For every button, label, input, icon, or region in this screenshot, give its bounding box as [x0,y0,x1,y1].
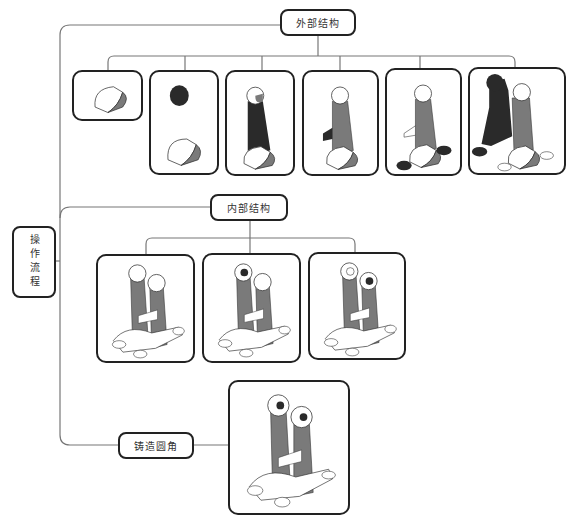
mirrored-arm-icon [470,69,564,173]
internal-step-3-image [308,252,406,360]
branch-node-external-structure: 外部结构 [280,9,356,36]
branch-label: 外部结构 [296,15,340,30]
external-step-5-image [385,68,462,176]
root-node-operation-flow: 操作流程 [12,226,56,298]
branch-label: 铸造圆角 [134,438,178,453]
process-diagram: 操作流程 外部结构 内部结构 铸造圆角 [0,0,572,521]
bracket-solid-icon [98,256,193,361]
external-step-1-image [72,70,143,121]
arm-icon [227,72,293,174]
branch-node-casting-fillet: 铸造圆角 [118,432,194,459]
bracket-left-bore-icon [204,255,299,361]
internal-step-2-image [202,253,301,363]
casting-fillet-image [228,380,350,515]
external-step-2-image [149,70,219,175]
external-step-4-image [302,70,379,176]
bracket-both-bores-icon [310,254,404,358]
root-label: 操作流程 [27,234,42,290]
lugs-icon [387,70,460,174]
external-step-3-image [225,70,295,176]
internal-step-1-image [96,254,195,363]
external-step-6-image [468,67,566,175]
boss-and-base-icon [151,72,217,173]
rib-icon [304,72,377,174]
half-cylinder-icon [74,72,141,119]
bracket-filleted-icon [230,382,348,513]
branch-label: 内部结构 [227,200,271,215]
branch-node-internal-structure: 内部结构 [210,194,288,221]
